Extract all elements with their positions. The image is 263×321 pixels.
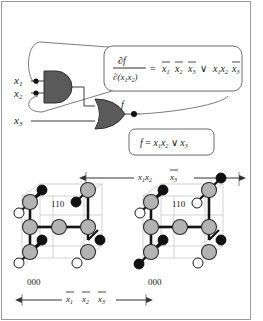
derivative-equals: = (150, 63, 156, 74)
function-expression: f = x1x2 ∨ x3 (140, 137, 188, 149)
derivative-numerator: ∂f (118, 55, 127, 66)
right-cube-label-000: 000 (148, 277, 162, 287)
and-gate (44, 71, 72, 103)
function-callout: f = x1x2 ∨ x3 (129, 129, 214, 155)
x1-sub: 1 (19, 80, 23, 88)
x3-sub: 3 (18, 120, 23, 128)
input-dot-x1 (33, 78, 38, 83)
left-cube-label-000: 000 (27, 277, 41, 287)
output-dot-f (131, 111, 137, 117)
derivative-term-group-1: x1 x2 x3 (161, 62, 196, 75)
derivative-or-symbol: ∨ (200, 63, 207, 74)
derivative-callout: ∂f ∂(x1x2) = x1 x2 x3 ∨ x1x2 x3 (104, 46, 242, 91)
figure-svg: x1 x2 x3 f ∂f ∂(x1x2) (0, 0, 263, 321)
input-dot-x2 (33, 90, 38, 95)
right-cube-label-110: 110 (172, 199, 186, 209)
x2-sub: 2 (19, 93, 23, 101)
left-cube-label-110: 110 (51, 199, 65, 209)
figure-canvas: x1 x2 x3 f ∂f ∂(x1x2) (0, 0, 263, 321)
